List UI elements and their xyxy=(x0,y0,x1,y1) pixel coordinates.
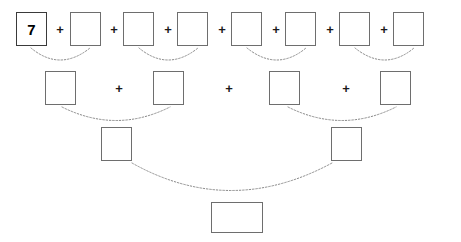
row-1-plus-icon-1: + xyxy=(54,23,66,35)
arc-r1-pair-4 xyxy=(355,48,414,60)
row-1-box-2[interactable] xyxy=(70,12,101,46)
row-1-plus-icon-5: + xyxy=(270,23,282,35)
row-1-plus-icon-6: + xyxy=(324,23,336,35)
row-1-plus-icon-3: + xyxy=(162,23,174,35)
arc-r1-pair-1 xyxy=(31,48,90,60)
row-2-plus-icon-3: + xyxy=(340,82,352,94)
arc-r2-pair-1 xyxy=(62,107,170,121)
arc-r2-pair-2 xyxy=(288,107,396,121)
row-2-plus-icon-1: + xyxy=(113,82,125,94)
row-1-plus-icon-4: + xyxy=(216,23,228,35)
row-1-box-7[interactable] xyxy=(339,12,370,46)
row-3-box-2[interactable] xyxy=(331,127,362,161)
arc-r1-pair-3 xyxy=(247,48,306,60)
row-1-plus-icon-2: + xyxy=(108,23,120,35)
row-2-box-1[interactable] xyxy=(45,71,76,105)
row-1-box-5[interactable] xyxy=(231,12,262,46)
row-2-box-4[interactable] xyxy=(380,71,411,105)
addition-pyramid-worksheet: 7++++++++++ xyxy=(0,0,461,242)
row-3-box-1[interactable] xyxy=(101,127,132,161)
row-1-box-6[interactable] xyxy=(285,12,316,46)
row-2-plus-icon-2: + xyxy=(223,82,235,94)
row-1-box-1[interactable]: 7 xyxy=(16,12,47,46)
arc-r3-pair-1 xyxy=(132,163,332,191)
row-2-box-3[interactable] xyxy=(269,71,300,105)
row-1-box-4[interactable] xyxy=(177,12,208,46)
row-1-box-8[interactable] xyxy=(393,12,424,46)
row-4-box-1[interactable] xyxy=(211,202,263,233)
arc-r1-pair-2 xyxy=(139,48,198,60)
row-1-plus-icon-7: + xyxy=(378,23,390,35)
row-2-box-2[interactable] xyxy=(153,71,184,105)
row-1-box-3[interactable] xyxy=(123,12,154,46)
